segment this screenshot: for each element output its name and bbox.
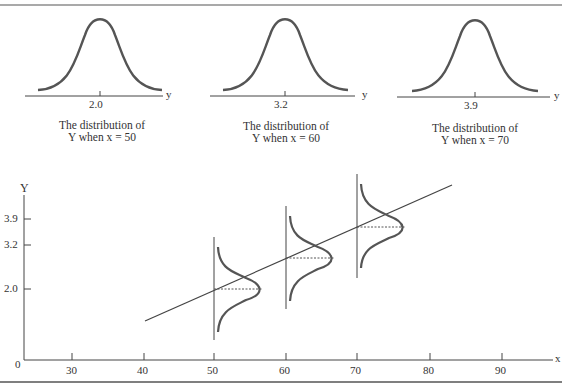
top-distribution-2 [210,19,355,96]
x-tick-50: 50 [207,364,218,376]
diagram-canvas [0,0,562,384]
regression-line [145,185,452,321]
caption-3-line1: The distribution of [395,122,555,134]
conditional-distribution-60 [286,206,334,309]
caption-1-line1: The distribution of [22,119,182,131]
caption-1-line2: Y when x = 50 [22,131,182,143]
caption-2-line2: Y when x = 60 [206,132,366,144]
y-tick-2-0: 2.0 [4,282,18,294]
main-axes [24,195,553,360]
x-tick-30: 30 [66,364,77,376]
axis-label-1: y [166,88,172,100]
x-tick-90: 90 [495,364,506,376]
x-axis-label: x [555,352,561,364]
x-tick-60: 60 [279,364,290,376]
origin-label: 0 [15,358,21,370]
caption-1: The distribution of Y when x = 50 [22,119,182,143]
caption-2: The distribution of Y when x = 60 [206,120,366,144]
x-tick-80: 80 [423,364,434,376]
mean-label-3: 3.9 [464,99,478,111]
y-tick-3-2: 3.2 [4,238,18,250]
conditional-distribution-50 [214,237,262,340]
axis-label-2: y [362,88,368,100]
top-distribution-3 [397,20,550,97]
conditional-distribution-70 [357,174,405,278]
y-axis-label: Y [20,181,29,196]
top-distribution-1 [25,19,163,96]
x-tick-70: 70 [350,364,361,376]
caption-2-line1: The distribution of [206,120,366,132]
x-tick-40: 40 [137,364,148,376]
caption-3-line2: Y when x = 70 [395,134,555,146]
caption-3: The distribution of Y when x = 70 [395,122,555,146]
mean-label-1: 2.0 [89,98,103,110]
y-tick-3-9: 3.9 [4,212,18,224]
axis-label-3: y [554,89,560,101]
mean-label-2: 3.2 [274,98,288,110]
